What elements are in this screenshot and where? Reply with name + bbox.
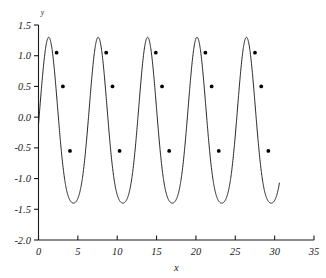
data-point-marker: [68, 149, 72, 153]
y-tick-label: 0.5: [18, 81, 31, 92]
y-tick-label: 0.0: [18, 112, 32, 123]
y-tick-label: -0.5: [14, 142, 31, 153]
y-tick-label: -1.0: [14, 173, 31, 184]
data-point-marker: [253, 51, 257, 55]
x-tick-label: 5: [75, 246, 80, 257]
x-tick-label: 0: [36, 246, 42, 257]
x-tick-label: 10: [112, 246, 123, 257]
data-point-marker: [217, 149, 221, 153]
data-point-marker: [210, 85, 214, 89]
x-tick-label: 15: [151, 246, 162, 257]
data-point-marker: [160, 85, 164, 89]
data-point-marker: [55, 51, 59, 55]
data-point-marker: [266, 149, 270, 153]
data-point-marker: [61, 85, 65, 89]
y-tick-label: 1.0: [18, 50, 32, 61]
y-tick-label: -1.5: [14, 204, 31, 215]
chart-figure: -2.0-1.5-1.0-0.50.00.51.01.5 05101520253…: [0, 0, 326, 278]
data-point-marker: [118, 149, 122, 153]
x-tick-label: 35: [308, 246, 320, 257]
chart-canvas: -2.0-1.5-1.0-0.50.00.51.01.5 05101520253…: [0, 0, 326, 278]
y-tick-label: 1.5: [18, 20, 31, 31]
x-tick-label: 30: [268, 246, 280, 257]
data-point-marker: [104, 51, 108, 55]
x-axis-label: x: [173, 262, 179, 273]
y-tick-label: -2.0: [14, 235, 31, 246]
data-point-marker: [111, 85, 115, 89]
data-point-marker: [203, 51, 207, 55]
data-point-marker: [259, 85, 263, 89]
chart-background: [0, 0, 326, 278]
x-tick-label: 20: [191, 246, 202, 257]
data-point-marker: [167, 149, 171, 153]
x-tick-label: 25: [230, 246, 241, 257]
data-point-marker: [154, 51, 158, 55]
y-axis-label: y: [40, 8, 45, 17]
